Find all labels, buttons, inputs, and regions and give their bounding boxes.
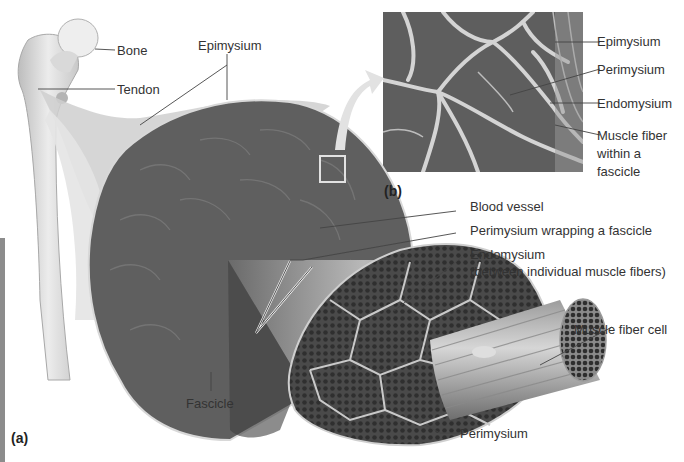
label-b-muscle-fiber-1: Muscle fiber <box>597 128 667 143</box>
label-b-muscle-fiber-3: fascicle <box>597 164 640 179</box>
label-endomysium: Endomysium <box>470 247 545 262</box>
label-epimysium: Epimysium <box>198 38 262 53</box>
myofibril-end <box>560 299 606 381</box>
label-endomysium-desc: (between individual muscle fibers) <box>470 264 666 279</box>
label-perimysium-wrapping: Perimysium wrapping a fascicle <box>470 223 652 238</box>
label-fascicle: Fascicle <box>186 396 234 411</box>
label-b-perimysium: Perimysium <box>597 62 665 77</box>
label-blood-vessel: Blood vessel <box>470 199 544 214</box>
panel-b-label: (b) <box>384 183 402 199</box>
label-tendon: Tendon <box>117 82 160 97</box>
label-perimysium: Perimysium <box>460 426 528 441</box>
panel-a-label: (a) <box>11 430 28 446</box>
label-muscle-fiber-cell: Muscle fiber cell <box>574 322 667 337</box>
label-bone: Bone <box>117 43 147 58</box>
label-b-epimysium: Epimysium <box>597 34 661 49</box>
label-b-muscle-fiber-2: within a <box>597 146 641 161</box>
label-b-endomysium: Endomysium <box>597 96 672 111</box>
